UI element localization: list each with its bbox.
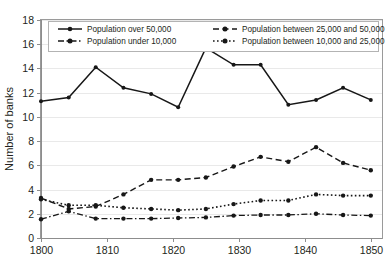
legend-label: Population under 10,000	[87, 37, 177, 46]
data-point	[39, 99, 43, 103]
data-point	[121, 206, 125, 210]
data-point	[341, 213, 345, 217]
data-point	[39, 217, 43, 221]
x-tick-label: 1810	[96, 244, 120, 256]
data-point	[67, 96, 71, 100]
series-dashed	[39, 145, 373, 211]
data-point	[286, 198, 290, 202]
data-point	[286, 160, 290, 164]
data-point	[231, 202, 235, 206]
data-point	[369, 213, 373, 217]
series-dotted	[39, 192, 373, 212]
y-tick-label: 6	[28, 159, 34, 171]
data-point	[121, 86, 125, 90]
data-point	[204, 215, 208, 219]
gridlines	[41, 20, 382, 239]
data-point	[232, 63, 236, 67]
legend-label: Population between 10,000 and 25,000	[242, 37, 385, 46]
x-tick-label: 1830	[228, 244, 252, 256]
data-point	[176, 105, 180, 109]
data-point	[67, 209, 71, 213]
data-point	[231, 213, 235, 217]
data-point	[67, 203, 71, 207]
x-tick-label: 1840	[294, 244, 318, 256]
data-point	[286, 213, 290, 217]
x-tick-label: 1820	[162, 244, 186, 256]
data-point	[149, 178, 153, 182]
data-point	[314, 192, 318, 196]
data-point	[149, 92, 153, 96]
data-point	[94, 65, 98, 69]
data-point	[94, 203, 98, 207]
data-point	[314, 212, 318, 216]
data-point	[121, 192, 125, 196]
y-tick-label: 16	[22, 38, 34, 50]
legend-sample-marker	[223, 27, 228, 32]
x-tick-label: 1850	[360, 244, 384, 256]
y-tick-labels: 024681012141618	[22, 14, 34, 244]
data-point	[176, 208, 180, 212]
y-axis-title: Number of banks	[3, 87, 15, 171]
y-tick-label: 0	[28, 232, 34, 244]
data-point	[204, 207, 208, 211]
data-point	[121, 216, 125, 220]
legend-label: Population between 25,000 and 50,000	[242, 25, 385, 34]
data-point	[176, 216, 180, 220]
data-point	[259, 63, 263, 67]
data-point	[369, 168, 373, 172]
data-point	[176, 178, 180, 182]
data-series-group	[39, 46, 373, 222]
data-point	[341, 86, 345, 90]
y-tick-label: 14	[22, 62, 34, 74]
data-point	[258, 155, 262, 159]
data-point	[231, 164, 235, 168]
data-point	[341, 161, 345, 165]
x-tick-label: 1800	[30, 244, 54, 256]
data-point	[258, 198, 262, 202]
data-point	[149, 207, 153, 211]
data-point	[94, 216, 98, 220]
data-point	[314, 145, 318, 149]
data-point	[286, 103, 290, 107]
plot-frame	[41, 20, 383, 239]
series-solid	[39, 46, 373, 109]
legend-sample-marker	[68, 39, 73, 44]
data-point	[369, 193, 373, 197]
data-point	[314, 98, 318, 102]
chart-canvas: 024681012141618 180018101820183018401850…	[0, 0, 392, 270]
y-tick-label: 4	[28, 184, 34, 196]
chart-legend: Population over 50,000Population between…	[49, 22, 385, 52]
bank-population-line-chart: 024681012141618 180018101820183018401850…	[0, 0, 392, 270]
data-point	[149, 216, 153, 220]
y-tick-label: 2	[28, 208, 34, 220]
y-tick-label: 10	[22, 111, 34, 123]
y-tick-label: 12	[22, 87, 34, 99]
legend-label: Population over 50,000	[87, 25, 172, 34]
data-point	[258, 213, 262, 217]
data-point	[204, 175, 208, 179]
series-line	[41, 48, 371, 107]
y-tick-label: 8	[28, 135, 34, 147]
data-point	[39, 197, 43, 201]
legend-sample-marker	[68, 27, 73, 32]
x-tick-labels: 180018101820183018401850	[30, 244, 384, 256]
legend-sample-marker	[223, 39, 228, 44]
y-tick-label: 18	[22, 14, 34, 26]
data-point	[369, 98, 373, 102]
data-point	[341, 193, 345, 197]
